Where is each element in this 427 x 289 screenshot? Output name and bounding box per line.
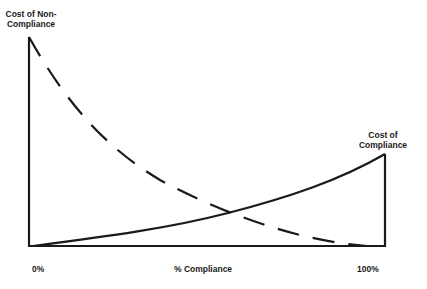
compliance-cost-curve (33, 154, 385, 246)
x-tick-0-percent: 0% (32, 264, 44, 274)
non-compliance-label-line2: Compliance (0, 19, 62, 29)
compliance-label-line2: Compliance (352, 140, 414, 150)
x-tick-100-percent: 100% (357, 264, 379, 274)
x-axis-title: % Compliance (174, 264, 232, 274)
non-compliance-label: Cost of Non- Compliance (0, 9, 62, 29)
compliance-label-line1: Cost of (352, 130, 414, 140)
non-compliance-label-line1: Cost of Non- (0, 9, 62, 19)
compliance-label: Cost of Compliance (352, 130, 414, 150)
non-compliance-cost-curve (29, 37, 367, 246)
